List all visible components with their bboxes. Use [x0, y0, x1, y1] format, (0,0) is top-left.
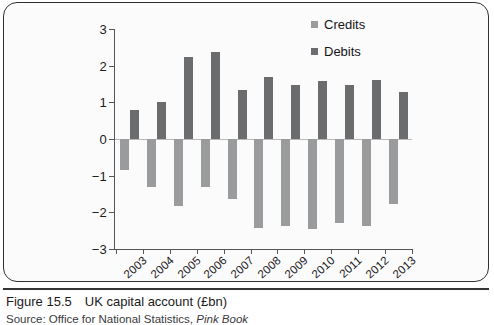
- bar-debits: [291, 85, 300, 139]
- x-axis-tick: [116, 249, 117, 254]
- source-prefix: Source: Office for National Statistics,: [6, 313, 196, 325]
- x-axis-label: 2004: [148, 254, 176, 281]
- y-axis-tick-label: 0: [100, 132, 107, 147]
- bar-group: [331, 29, 358, 249]
- figure-caption-text: UK capital account (£bn): [85, 294, 227, 309]
- bar-group: [197, 29, 224, 249]
- bar-group: [116, 29, 143, 249]
- x-axis-label: 2006: [202, 254, 230, 281]
- y-axis-tick: [109, 102, 115, 103]
- bar-credits: [389, 139, 398, 204]
- x-axis-tick: [331, 249, 332, 254]
- y-axis-tick-label: 2: [100, 58, 107, 73]
- source-publication: Pink Book: [196, 313, 248, 325]
- y-axis-tick: [109, 212, 115, 213]
- x-axis-label: 2007: [229, 254, 257, 281]
- square-swatch-icon: [311, 21, 318, 28]
- bar-group: [251, 29, 278, 249]
- bar-group: [224, 29, 251, 249]
- bar-credits: [281, 139, 290, 226]
- y-axis-tick: [109, 249, 115, 250]
- bar-debits: [238, 90, 247, 139]
- figure-source: Source: Office for National Statistics, …: [6, 313, 248, 325]
- x-axis-tick: [224, 249, 225, 254]
- y-axis-tick-label: −2: [92, 205, 107, 220]
- bar-debits: [130, 110, 139, 139]
- bar-credits: [335, 139, 344, 223]
- x-axis-tick: [143, 249, 144, 254]
- bar-debits: [345, 85, 354, 139]
- x-axis-tick: [251, 249, 252, 254]
- figure-number: Figure 15.5: [6, 294, 72, 309]
- bar-credits: [308, 139, 317, 229]
- bar-group: [385, 29, 412, 249]
- x-axis-tick: [170, 249, 171, 254]
- x-axis-label: 2013: [390, 254, 418, 281]
- bar-debits: [211, 52, 220, 139]
- bar-credits: [201, 139, 210, 187]
- bar-credits: [147, 139, 156, 187]
- y-axis-tick-label: −1: [92, 168, 107, 183]
- bar-credits: [228, 139, 237, 199]
- y-axis-tick-label: 1: [100, 95, 107, 110]
- bar-group: [304, 29, 331, 249]
- x-axis-tick: [385, 249, 386, 254]
- bar-debits: [318, 81, 327, 139]
- x-axis-label: 2011: [337, 254, 364, 280]
- y-axis-tick: [109, 176, 115, 177]
- y-axis-tick: [109, 66, 115, 67]
- bar-group: [358, 29, 385, 249]
- x-axis-tick: [277, 249, 278, 254]
- x-axis-label: 2009: [283, 254, 311, 281]
- x-axis-label: 2008: [256, 254, 284, 281]
- y-axis-tick-label: −3: [92, 242, 107, 257]
- bar-debits: [157, 102, 166, 139]
- x-axis-tick: [197, 249, 198, 254]
- figure-frame: Credits Debits 3210−1−2−3 20032004200520…: [3, 2, 489, 282]
- bar-debits: [372, 80, 381, 139]
- x-axis-label: 2010: [309, 254, 337, 281]
- x-axis-tick: [412, 249, 413, 254]
- bar-credits: [254, 139, 263, 228]
- y-axis-tick-label: 3: [100, 22, 107, 37]
- bar-debits: [184, 57, 193, 140]
- y-axis-tick: [109, 29, 115, 30]
- bar-debits: [399, 92, 408, 139]
- caption-divider: [3, 288, 489, 290]
- x-axis-line: [114, 249, 412, 250]
- x-axis-tick: [358, 249, 359, 254]
- bar-group: [170, 29, 197, 249]
- x-axis-label: 2003: [121, 254, 149, 281]
- chart-plot-area: 3210−1−2−3 20032004200520062007200820092…: [116, 29, 412, 249]
- x-axis-tick: [304, 249, 305, 254]
- y-axis-tick: [109, 139, 115, 140]
- bar-credits: [120, 139, 129, 170]
- bar-group: [277, 29, 304, 249]
- bar-credits: [174, 139, 183, 206]
- x-axis-label: 2012: [363, 254, 391, 281]
- bar-group: [143, 29, 170, 249]
- figure-caption: Figure 15.5UK capital account (£bn): [6, 294, 227, 309]
- bar-credits: [362, 139, 371, 226]
- x-axis-label: 2005: [175, 254, 203, 281]
- bar-debits: [264, 77, 273, 139]
